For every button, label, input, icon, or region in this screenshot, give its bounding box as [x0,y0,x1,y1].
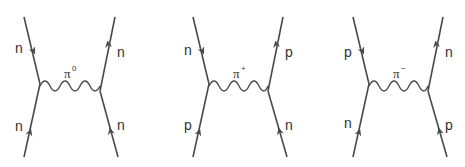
fermion-line-right [268,17,287,157]
label-bottom-left: n [15,118,23,134]
fermion-line-right [428,17,447,157]
fermion-line-left [193,17,209,157]
label-bottom-left: n [344,115,352,131]
fermion-line-left [24,17,40,157]
exchange-charge-label: 0 [72,64,77,73]
label-bottom-right: n [285,117,293,133]
label-top-left: n [184,42,192,58]
feynman-diagrams: n n n n π 0 n p p n π + [0,0,465,167]
label-bottom-right: p [445,117,453,133]
label-top-left: n [15,40,23,56]
exchange-particle-label: π [64,66,71,81]
pion-propagator-wavy [369,81,428,91]
exchange-charge-label: + [241,64,246,73]
fermion-line-left [353,17,369,157]
label-top-left: p [344,44,352,60]
diagram-pi-plus-exchange: n p p n π + [184,17,293,157]
label-top-right: n [117,44,125,60]
label-bottom-left: p [184,117,192,133]
exchange-particle-label: π [393,66,400,81]
pion-propagator-wavy [40,81,100,91]
diagram-pi-minus-exchange: p n n p π − [344,17,453,157]
label-bottom-right: n [117,117,125,133]
exchange-charge-label: − [401,64,406,73]
fermion-line-right [100,17,118,157]
diagram-pi0-exchange: n n n n π 0 [15,17,125,157]
label-top-right: p [285,44,293,60]
label-top-right: n [445,44,453,60]
exchange-particle-label: π [233,66,240,81]
pion-propagator-wavy [209,81,268,91]
